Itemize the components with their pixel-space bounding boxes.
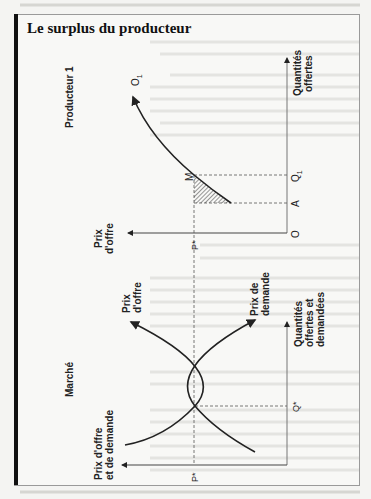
producer-quantity-axis-label-1: Quantités (292, 49, 303, 96)
producer-curve-label: O1 (130, 74, 143, 86)
supply-label-2: d'offre (132, 282, 143, 313)
market-price-axis-label-2: et de demande (104, 410, 115, 480)
supply-label-1: Prix (121, 294, 132, 313)
point-label-m: M (184, 173, 195, 181)
market-panel-label: Marché (64, 362, 75, 397)
producer-panel-label: Producteur 1 (64, 66, 75, 128)
market-price-tick: P* (190, 472, 200, 482)
producer-price-axis-label-1: Prix (93, 229, 104, 248)
producer-price-axis-label-2: d'offre (104, 223, 115, 254)
producer-surplus-diagram: O1 Producteur 1 Prix d'offre Quantités o… (0, 0, 371, 499)
producer-quantity-axis-label-2: offertes (303, 55, 314, 92)
market-price-axis-label-1: Prix d'offre (93, 427, 104, 480)
market-quantity-axis-label-2: offertes et (304, 298, 315, 347)
producer-supply-curve (133, 97, 231, 203)
market-qty-tick: Q* (291, 401, 301, 412)
demand-label-1: Prix de (249, 282, 260, 316)
market-quantity-axis-label-3: demandées (315, 292, 326, 347)
qty-tick-q1: Q1 (290, 170, 303, 182)
market-demand-curve (188, 320, 256, 452)
market-quantity-axis-label-1: Quantités (293, 300, 304, 347)
producer-panel: O1 Producteur 1 Prix d'offre Quantités o… (64, 49, 314, 465)
market-supply-curve (125, 322, 203, 445)
producer-price-tick: P* (190, 240, 200, 250)
qty-tick-a: A (290, 200, 301, 207)
demand-label-2: demande (260, 272, 271, 316)
producer-origin-label: O (290, 230, 301, 238)
market-panel: Marché Prix d'offre et de demande Prix d… (64, 272, 326, 482)
